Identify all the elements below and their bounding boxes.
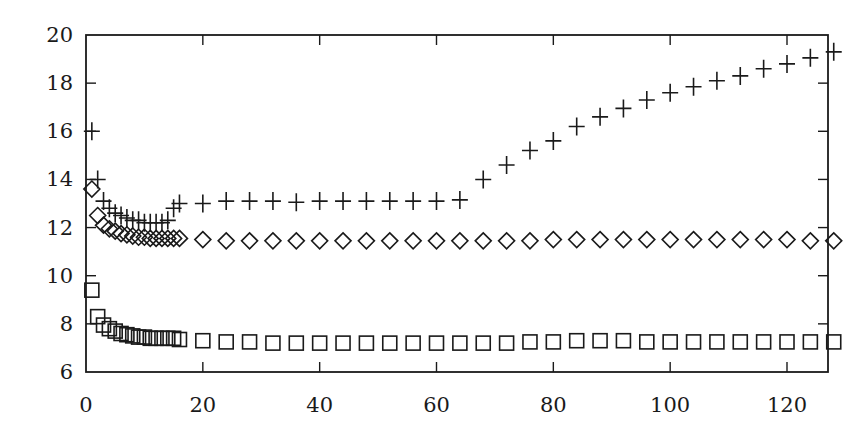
square-marker-icon	[663, 335, 677, 349]
square-marker-icon	[85, 283, 99, 297]
series-square-markers	[85, 283, 841, 350]
diamond-marker-icon	[545, 232, 561, 248]
y-tick-label: 18	[46, 71, 73, 95]
plus-marker-icon	[475, 170, 491, 188]
square-marker-icon	[570, 334, 584, 348]
plus-marker-icon	[382, 192, 398, 210]
plus-marker-icon	[756, 60, 772, 78]
plus-marker-icon	[709, 72, 725, 90]
series-plus-markers	[84, 43, 842, 232]
square-marker-icon	[336, 336, 350, 350]
square-marker-icon	[476, 336, 490, 350]
diamond-marker-icon	[475, 233, 491, 249]
square-marker-icon	[219, 335, 233, 349]
square-marker-icon	[616, 334, 630, 348]
diamond-marker-icon	[265, 233, 281, 249]
diamond-marker-icon	[429, 233, 445, 249]
plus-marker-icon	[639, 91, 655, 109]
y-tick-label: 16	[46, 119, 73, 143]
plus-marker-icon	[429, 192, 445, 210]
square-marker-icon	[196, 334, 210, 348]
diamond-marker-icon	[756, 232, 772, 248]
x-tick-label: 60	[423, 393, 450, 417]
plus-marker-icon	[358, 192, 374, 210]
x-tick-label: 40	[306, 393, 333, 417]
plus-marker-icon	[802, 49, 818, 67]
x-tick-label: 120	[767, 393, 807, 417]
diamond-marker-icon	[382, 233, 398, 249]
x-tick-label: 100	[650, 393, 690, 417]
square-marker-icon	[359, 336, 373, 350]
square-marker-icon	[593, 334, 607, 348]
plus-marker-icon	[288, 193, 304, 211]
diamond-marker-icon	[732, 232, 748, 248]
diamond-marker-icon	[195, 232, 211, 248]
square-marker-icon	[523, 335, 537, 349]
diamond-marker-icon	[686, 232, 702, 248]
plus-marker-icon	[662, 84, 678, 102]
square-marker-icon	[289, 336, 303, 350]
scatter-chart: 020406080100120 68101214161820	[0, 0, 865, 446]
y-tick-label: 20	[46, 23, 73, 47]
plus-marker-icon	[405, 192, 421, 210]
square-marker-icon	[546, 335, 560, 349]
series-diamond-markers	[84, 181, 842, 249]
diamond-marker-icon	[160, 230, 176, 246]
diamond-marker-icon	[335, 233, 351, 249]
diamond-marker-icon	[499, 233, 515, 249]
plus-marker-icon	[522, 142, 538, 160]
plus-marker-icon	[499, 156, 515, 174]
diamond-marker-icon	[242, 233, 258, 249]
square-marker-icon	[640, 335, 654, 349]
diamond-marker-icon	[218, 233, 234, 249]
square-marker-icon	[500, 336, 514, 350]
plus-marker-icon	[312, 192, 328, 210]
x-tick-label: 0	[79, 393, 92, 417]
x-axis-tick-labels: 020406080100120	[79, 393, 807, 417]
square-marker-icon	[780, 335, 794, 349]
y-tick-label: 10	[46, 264, 73, 288]
y-tick-label: 8	[60, 312, 73, 336]
plus-marker-icon	[615, 99, 631, 117]
square-marker-icon	[687, 335, 701, 349]
square-marker-icon	[757, 335, 771, 349]
y-tick-label: 6	[60, 360, 73, 384]
square-marker-icon	[313, 336, 327, 350]
diamond-marker-icon	[709, 232, 725, 248]
square-marker-icon	[803, 335, 817, 349]
y-tick-label: 14	[46, 167, 73, 191]
square-marker-icon	[430, 336, 444, 350]
plus-marker-icon	[732, 67, 748, 85]
diamond-marker-icon	[639, 232, 655, 248]
diamond-marker-icon	[405, 233, 421, 249]
plus-marker-icon	[452, 191, 468, 209]
y-tick-label: 12	[46, 216, 73, 240]
diamond-marker-icon	[569, 232, 585, 248]
square-marker-icon	[406, 336, 420, 350]
plus-marker-icon	[265, 192, 281, 210]
plus-marker-icon	[242, 192, 258, 210]
plus-marker-icon	[779, 55, 795, 73]
diamond-marker-icon	[288, 233, 304, 249]
x-tick-label: 80	[540, 393, 567, 417]
square-marker-icon	[710, 335, 724, 349]
square-marker-icon	[383, 336, 397, 350]
diamond-marker-icon	[358, 233, 374, 249]
diamond-marker-icon	[779, 232, 795, 248]
square-marker-icon	[243, 335, 257, 349]
square-marker-icon	[453, 336, 467, 350]
diamond-marker-icon	[592, 232, 608, 248]
diamond-marker-icon	[802, 233, 818, 249]
diamond-marker-icon	[154, 230, 170, 246]
plus-marker-icon	[686, 78, 702, 96]
diamond-marker-icon	[312, 233, 328, 249]
y-axis-tick-labels: 68101214161820	[46, 23, 73, 384]
plus-marker-icon	[195, 195, 211, 213]
diamond-marker-icon	[452, 233, 468, 249]
diamond-marker-icon	[615, 232, 631, 248]
plus-marker-icon	[335, 192, 351, 210]
x-tick-label: 20	[189, 393, 216, 417]
square-marker-icon	[733, 335, 747, 349]
plus-marker-icon	[592, 108, 608, 126]
diamond-marker-icon	[662, 232, 678, 248]
